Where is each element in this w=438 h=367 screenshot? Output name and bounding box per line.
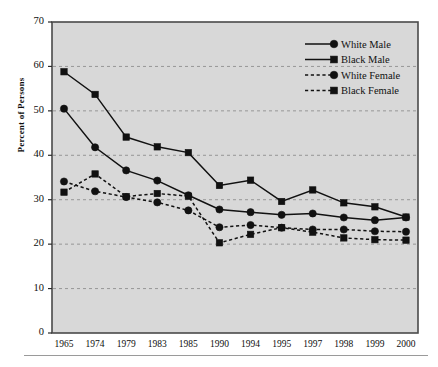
data-point <box>310 229 316 235</box>
data-point <box>278 198 284 204</box>
y-axis-tick-label: 50 <box>18 104 44 115</box>
data-point <box>341 200 347 206</box>
data-point <box>371 217 378 224</box>
data-point <box>61 189 67 195</box>
data-point <box>92 91 98 97</box>
data-point <box>403 214 409 220</box>
legend-marker-square <box>331 56 338 63</box>
y-axis-tick-label: 60 <box>18 59 44 70</box>
data-point <box>123 193 129 199</box>
line-chart-plot: White MaleBlack MaleWhite FemaleBlack Fe… <box>0 0 438 367</box>
y-axis-tick-label: 30 <box>18 193 44 204</box>
y-axis-tick-label: 10 <box>18 282 44 293</box>
data-point <box>185 149 191 155</box>
data-point <box>154 144 160 150</box>
data-point <box>154 177 161 184</box>
data-point <box>309 210 316 217</box>
y-axis-tick-label: 70 <box>18 15 44 26</box>
data-point <box>340 214 347 221</box>
data-point <box>372 237 378 243</box>
legend-label: White Female <box>341 70 401 81</box>
x-axis-tick-label: 2000 <box>388 339 424 349</box>
data-point <box>185 207 192 214</box>
legend-label: Black Male <box>341 54 390 65</box>
plot-area-background <box>52 22 418 333</box>
y-axis-tick-label: 0 <box>18 326 44 337</box>
legend-marker-circle <box>330 40 338 48</box>
data-point <box>371 228 378 235</box>
data-point <box>402 228 409 235</box>
data-point <box>247 209 254 216</box>
data-point <box>60 178 67 185</box>
data-point <box>278 225 284 231</box>
footer-rule <box>24 355 428 356</box>
legend-marker-square <box>331 87 338 94</box>
data-point <box>247 177 253 183</box>
data-point <box>247 221 254 228</box>
data-point <box>278 211 285 218</box>
y-axis-tick-label: 40 <box>18 148 44 159</box>
data-point <box>340 226 347 233</box>
data-point <box>372 204 378 210</box>
data-point <box>310 187 316 193</box>
data-point <box>216 224 223 231</box>
data-point <box>91 144 98 151</box>
legend-label: Black Female <box>341 85 399 96</box>
data-point <box>60 105 67 112</box>
data-point <box>216 240 222 246</box>
data-point <box>123 134 129 140</box>
data-point <box>91 188 98 195</box>
data-point <box>61 69 67 75</box>
data-point <box>247 231 253 237</box>
y-axis-tick-label: 20 <box>18 237 44 248</box>
data-point <box>154 199 161 206</box>
data-point <box>123 167 130 174</box>
data-point <box>185 193 191 199</box>
data-point <box>341 235 347 241</box>
data-point <box>216 206 223 213</box>
data-point <box>154 190 160 196</box>
legend-marker-circle <box>330 71 338 79</box>
data-point <box>92 171 98 177</box>
chart-figure: Percent of Persons White MaleBlack MaleW… <box>0 0 438 367</box>
legend-label: White Male <box>341 39 391 50</box>
data-point <box>216 182 222 188</box>
data-point <box>403 237 409 243</box>
